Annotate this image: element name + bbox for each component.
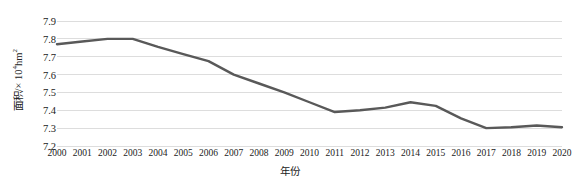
series-group xyxy=(57,39,562,128)
x-axis-tick-label: 2007 xyxy=(224,148,243,158)
x-axis-tick-label: 2015 xyxy=(426,148,445,158)
x-axis-tick-label: 2000 xyxy=(48,148,67,158)
y-axis-tick-label: 7.6 xyxy=(43,69,56,80)
y-axis-title-unit-exponent: 2 xyxy=(11,49,19,53)
y-axis-tick-label: 7.9 xyxy=(43,16,56,27)
y-axis-tick-label: 7.7 xyxy=(43,51,56,62)
x-axis-tick-label: 2014 xyxy=(401,148,420,158)
x-axis-tick-label: 2017 xyxy=(477,148,496,158)
x-axis-tick-label: 2001 xyxy=(73,148,92,158)
x-axis-tick-label: 2019 xyxy=(527,148,546,158)
y-axis-title-text: 面积/× 104hm2 xyxy=(14,49,25,111)
x-axis-tick-label: 2008 xyxy=(250,148,269,158)
plot-svg xyxy=(57,21,562,146)
x-axis-tick-label: 2011 xyxy=(325,148,344,158)
y-axis-title-suffix: hm xyxy=(13,52,24,65)
x-axis-tick-label: 2009 xyxy=(275,148,294,158)
y-axis-title-exponent: 4 xyxy=(11,66,19,70)
x-axis-tick-label: 2006 xyxy=(199,148,218,158)
y-axis-tick-label: 7.3 xyxy=(43,123,56,134)
x-axis-tick-label: 2012 xyxy=(351,148,370,158)
x-axis-tick-labels: 2000200120022003200420052006200720082009… xyxy=(57,148,562,164)
x-axis-tick-label: 2016 xyxy=(452,148,471,158)
x-axis-tick-label: 2002 xyxy=(98,148,117,158)
x-axis-tick-label: 2010 xyxy=(300,148,319,158)
y-axis-tick-label: 7.5 xyxy=(43,87,56,98)
x-axis-title: 年份 xyxy=(0,163,580,178)
line-chart: 面积/× 104hm2 7.97.87.77.67.57.47.37.2 200… xyxy=(0,0,580,182)
x-axis-tick-label: 2018 xyxy=(502,148,521,158)
plot-area xyxy=(57,21,562,146)
x-axis-tick-label: 2004 xyxy=(149,148,168,158)
y-axis-tick-label: 7.4 xyxy=(43,105,56,116)
y-axis-tick-label: 7.8 xyxy=(43,33,56,44)
x-axis-tick-label: 2013 xyxy=(376,148,395,158)
x-axis-tick-label: 2003 xyxy=(123,148,142,158)
series-line xyxy=(57,39,562,128)
x-axis-tick-label: 2020 xyxy=(553,148,572,158)
x-axis-tick-label: 2005 xyxy=(174,148,193,158)
y-axis-title-prefix: 面积/× 10 xyxy=(13,69,24,111)
